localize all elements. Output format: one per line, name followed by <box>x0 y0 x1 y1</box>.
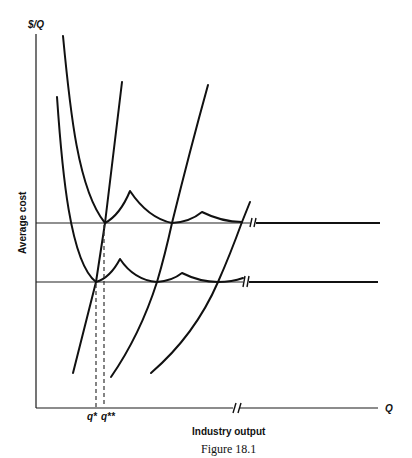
tick-q-star: q* <box>87 411 98 422</box>
rising-line-3 <box>151 202 250 373</box>
upper-line-break-icon <box>250 218 256 227</box>
upper-average-cost-curve <box>63 36 242 223</box>
x-axis-break-icon <box>233 403 241 413</box>
y-axis-unit-label: $/Q <box>27 19 44 30</box>
rising-line-2 <box>111 85 208 377</box>
rising-line-1 <box>73 82 122 373</box>
y-axis-label: Average cost <box>17 191 28 254</box>
figure-caption: Figure 18.1 <box>201 442 256 456</box>
figure-canvas: $/Q Average cost Q q* q** Industry outpu… <box>0 0 412 458</box>
x-axis-end-label: Q <box>385 403 393 414</box>
lower-average-cost-curve <box>57 97 243 282</box>
tick-q-star-star: q** <box>101 411 116 422</box>
x-axis-label: Industry output <box>192 426 266 437</box>
